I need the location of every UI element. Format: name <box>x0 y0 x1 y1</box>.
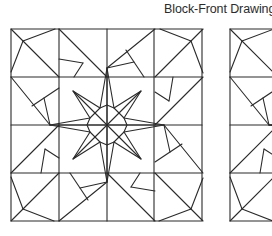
quilt-block-2 <box>230 29 272 221</box>
quilt-block-1 <box>11 29 203 221</box>
block-drawings-canvas <box>0 0 272 236</box>
